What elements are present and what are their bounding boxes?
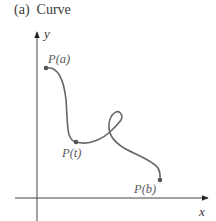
point-middle-dot xyxy=(74,140,79,145)
point-middle-label: P(t) xyxy=(61,146,81,160)
parametric-curve xyxy=(46,68,160,180)
point-end-dot xyxy=(158,178,163,183)
point-start-dot xyxy=(44,66,49,71)
point-end-label: P(b) xyxy=(133,182,156,196)
y-axis-label: y xyxy=(42,26,50,41)
x-axis-label: x xyxy=(198,204,205,219)
curve-diagram: y x P(a) P(t) P(b) xyxy=(0,0,216,221)
point-start-label: P(a) xyxy=(47,52,70,66)
